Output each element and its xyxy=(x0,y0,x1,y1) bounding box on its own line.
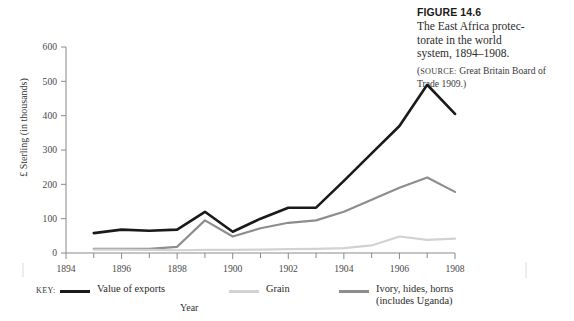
figure-number: FIGURE 14.6 xyxy=(417,6,569,19)
legend-swatch-value-of-exports xyxy=(60,290,90,293)
y-tick-label: 300 xyxy=(43,144,58,155)
x-tick-label: 1896 xyxy=(112,263,131,274)
legend-label-ivory-hides-horns: Ivory, hides, horns (includes Uganda) xyxy=(376,283,453,308)
legend-item-ivory-hides-horns: Ivory, hides, horns (includes Uganda) xyxy=(339,283,453,308)
legend-swatch-grain xyxy=(229,290,259,293)
legend-swatch-ivory-hides-horns xyxy=(339,290,369,293)
plot-area: £ Sterling (in thousands) Year 010020030… xyxy=(0,30,470,270)
figure-root: FIGURE 14.6 The East Africa protec- tora… xyxy=(0,0,574,321)
y-tick-label: 100 xyxy=(43,213,58,224)
series-lines xyxy=(94,85,455,250)
chart-legend: KEY: Value of exports Grain Ivory, hides… xyxy=(36,283,506,317)
y-tick-label: 600 xyxy=(43,41,58,52)
x-tick-label: 1904 xyxy=(334,263,353,274)
legend-key-label: KEY: xyxy=(36,286,56,295)
y-tick-label: 400 xyxy=(43,110,58,121)
scan-artifact-right xyxy=(525,262,527,278)
legend-label-grain: Grain xyxy=(266,283,290,295)
legend-item-value-of-exports: Value of exports xyxy=(60,283,165,295)
legend-label-value-of-exports: Value of exports xyxy=(97,283,165,295)
y-tick-label: 500 xyxy=(43,76,58,87)
y-tick-label: 200 xyxy=(43,179,58,190)
x-axis: 18941896189819001902190419061908 xyxy=(56,253,464,274)
legend-item-grain: Grain xyxy=(229,283,290,295)
x-tick-label: 1902 xyxy=(279,263,298,274)
x-tick-label: 1898 xyxy=(168,263,187,274)
x-tick-label: 1900 xyxy=(223,263,242,274)
y-tick-label: 0 xyxy=(52,247,57,258)
series-line xyxy=(94,85,455,233)
x-tick-label: 1894 xyxy=(56,263,75,274)
line-chart: 0100200300400500600 18941896189819001902… xyxy=(0,30,470,300)
y-axis: 0100200300400500600 xyxy=(43,41,66,258)
x-tick-label: 1906 xyxy=(390,263,409,274)
x-tick-label: 1908 xyxy=(445,263,464,274)
